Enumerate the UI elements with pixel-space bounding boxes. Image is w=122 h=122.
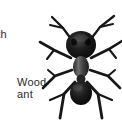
ant-body-group	[66, 31, 96, 105]
wood-ant-illustration	[38, 12, 122, 122]
label-moth-text: oth	[0, 28, 7, 40]
ant-head-highlight	[74, 34, 88, 42]
ant-gaster-highlight	[73, 85, 83, 92]
label-moth-clipped: oth	[0, 28, 7, 40]
ant-gaster	[70, 81, 92, 105]
illustration-figure: oth Wood ant	[0, 0, 122, 122]
